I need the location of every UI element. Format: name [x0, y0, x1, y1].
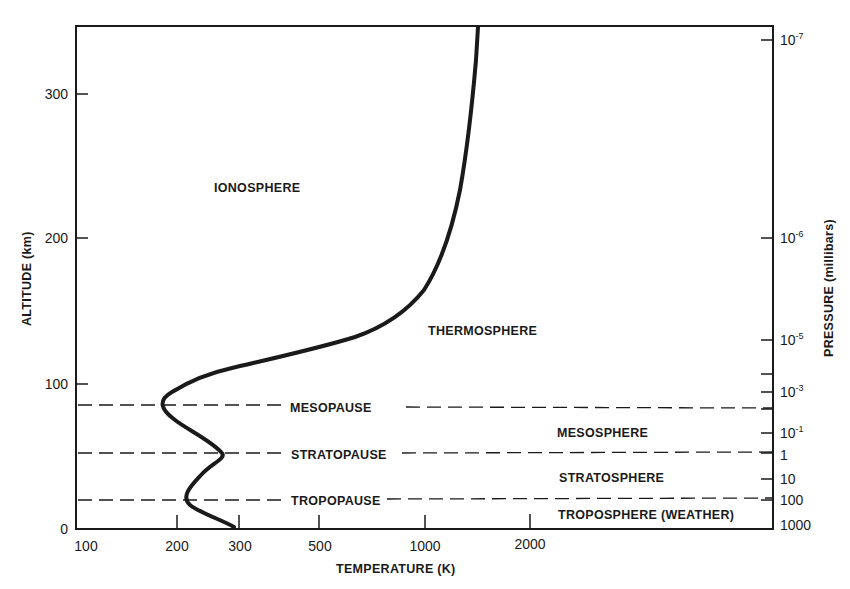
atmosphere-temperature-chart: 0 100 200 300 100 200 300 500 1000 2000 … — [0, 0, 850, 589]
pressure-axis-ticks — [761, 40, 773, 500]
tropopause-line-right — [387, 498, 772, 499]
pressure-tick-label: 1 — [780, 447, 788, 463]
pressure-tick-label: 10-1 — [780, 424, 804, 441]
y-tick-label: 300 — [45, 86, 69, 102]
pressure-tick-label: 10 — [780, 471, 796, 487]
x-axis-tick-labels: 100 200 300 500 1000 2000 — [74, 536, 545, 554]
boundary-labels: MESOPAUSE STRATOPAUSE TROPOPAUSE — [290, 401, 387, 508]
pressure-tick-label: 10-7 — [780, 31, 804, 48]
y-axis-tick-labels: 0 100 200 300 — [45, 86, 69, 537]
pressure-tick-label: 10-6 — [780, 229, 804, 246]
ionosphere-label: IONOSPHERE — [214, 181, 300, 195]
x-axis-title: TEMPERATURE (K) — [336, 562, 456, 576]
pressure-axis-tick-labels: 10-7 10-6 10-5 10-3 10-1 1 10 100 1000 — [780, 31, 811, 533]
y-axis-title: ALTITUDE (km) — [20, 231, 34, 326]
x-tick-label: 100 — [74, 538, 98, 554]
x-tick-label: 1000 — [409, 538, 440, 554]
pressure-tick-label: 1000 — [780, 517, 811, 533]
mesosphere-label: MESOSPHERE — [557, 426, 648, 440]
stratosphere-label: STRATOSPHERE — [559, 471, 664, 485]
y-tick-label: 100 — [45, 376, 69, 392]
pressure-axis-title: PRESSURE (millibars) — [822, 219, 836, 357]
x-tick-label: 2000 — [514, 536, 545, 552]
pressure-tick-label: 10-5 — [780, 331, 804, 348]
y-axis-ticks — [76, 94, 88, 384]
tropopause-label: TROPOPAUSE — [291, 494, 381, 508]
stratopause-line-right — [402, 452, 772, 453]
stratopause-label: STRATOPAUSE — [291, 448, 387, 462]
y-tick-label: 200 — [45, 230, 69, 246]
pressure-tick-label: 10-3 — [780, 383, 804, 400]
mesopause-line-right — [406, 407, 772, 408]
troposphere-label: TROPOSPHERE (WEATHER) — [558, 508, 734, 522]
region-labels: IONOSPHERE THERMOSPHERE MESOSPHERE STRAT… — [214, 181, 734, 522]
mesopause-label: MESOPAUSE — [290, 401, 372, 415]
y-tick-label: 0 — [60, 521, 68, 537]
thermosphere-label: THERMOSPHERE — [428, 324, 537, 338]
pressure-tick-label: 100 — [780, 492, 804, 508]
x-tick-label: 500 — [308, 538, 332, 554]
x-tick-label: 200 — [165, 538, 189, 554]
boundary-lines — [78, 405, 772, 500]
x-tick-label: 300 — [228, 538, 252, 554]
